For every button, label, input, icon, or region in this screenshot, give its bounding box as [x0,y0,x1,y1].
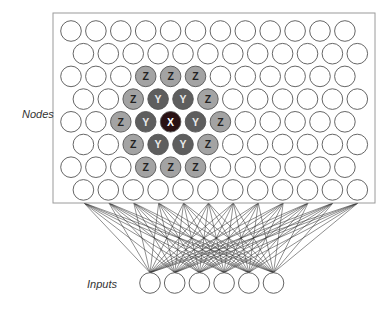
node-letter: Z [217,116,224,128]
node [322,180,343,201]
node [210,157,231,178]
node [73,134,94,155]
input-node [214,273,235,294]
node-z: Z [111,112,132,133]
node [61,21,82,42]
wire [150,203,333,273]
node-letter: Y [155,138,162,150]
node-letter: Y [155,93,162,105]
node-letter: Z [130,93,137,105]
node-y: Y [148,89,169,110]
node [223,43,244,64]
node [285,21,306,42]
node-y: Y [173,134,194,155]
node [73,43,94,64]
node [73,180,94,201]
node-z: Z [123,89,144,110]
node [247,89,268,110]
node [335,21,356,42]
input-node [239,273,260,294]
node [235,21,256,42]
node [123,43,144,64]
node-letter: Z [205,93,212,105]
node [210,21,231,42]
node [135,21,156,42]
node [335,112,356,133]
node-letter: Z [130,138,137,150]
wire [175,203,358,273]
node-letter: Z [192,70,199,82]
node [111,66,132,87]
node [310,21,331,42]
node [223,180,244,201]
node [173,43,194,64]
input-node [140,273,161,294]
node [86,157,107,178]
input-node [189,273,210,294]
node [235,66,256,87]
node-z: Z [135,157,156,178]
node [86,66,107,87]
node [86,112,107,133]
node-z: Z [198,134,219,155]
node [322,43,343,64]
node-letter: Z [192,161,199,173]
wire [150,203,209,273]
node [347,43,368,64]
input-layer [140,273,284,294]
node [98,180,119,201]
node [111,157,132,178]
node [98,43,119,64]
node-z: Z [123,134,144,155]
node-letter: Z [142,161,149,173]
node-letter: Z [142,70,149,82]
node-z: Z [185,157,206,178]
node [347,89,368,110]
node-y: Y [135,112,156,133]
node-letter: Z [167,161,174,173]
node-z: Z [160,66,181,87]
node-z: Z [160,157,181,178]
wire [150,203,233,273]
node [297,180,318,201]
node [247,134,268,155]
node [86,21,107,42]
node-y: Y [148,134,169,155]
node [223,134,244,155]
node [335,157,356,178]
wire [249,203,358,273]
node [98,134,119,155]
node-z: Z [185,66,206,87]
node [347,180,368,201]
node [310,66,331,87]
node [61,112,82,133]
node-x: X [160,112,181,133]
node [123,180,144,201]
node [61,157,82,178]
input-node [164,273,185,294]
node [223,89,244,110]
node [198,43,219,64]
node [260,66,281,87]
node [98,89,119,110]
node [247,43,268,64]
node-letter: X [167,116,174,128]
wire [150,203,283,273]
node-z: Z [135,66,156,87]
node-letter: Z [118,116,125,128]
node-letter: Y [192,116,199,128]
node [347,134,368,155]
node [272,134,293,155]
node-letter: Z [205,138,212,150]
som-diagram: ZZZZYYZZYXYZZYYZZZZ [0,0,389,310]
node-z: Z [198,89,219,110]
wire [224,203,358,273]
node [61,66,82,87]
node-z: Z [210,112,231,133]
node-letter: Y [179,138,186,150]
connection-wires [84,203,358,273]
node [247,180,268,201]
node [272,43,293,64]
node [297,43,318,64]
node [335,66,356,87]
